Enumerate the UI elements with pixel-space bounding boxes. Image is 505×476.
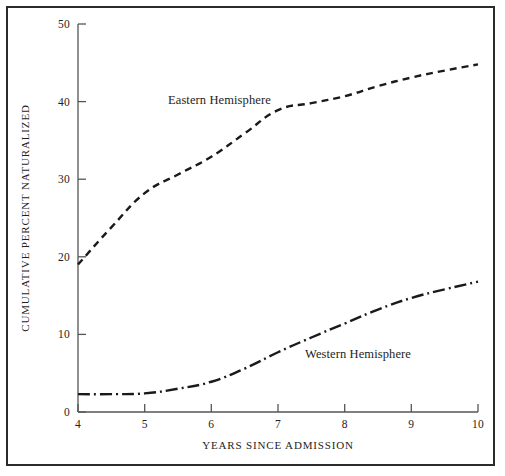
x-tick-label-10: 10 <box>472 418 484 430</box>
series-line-eastern-hemisphere <box>78 64 478 264</box>
series-line-western-hemisphere <box>78 282 478 395</box>
x-axis-title: YEARS SINCE ADMISSION <box>202 439 354 451</box>
x-tick-label-6: 6 <box>208 418 214 430</box>
x-tick-label-7: 7 <box>275 418 281 430</box>
y-tick-marks <box>78 24 86 412</box>
series-label-western-hemisphere: Western Hemisphere <box>305 347 411 362</box>
x-tick-label-8: 8 <box>342 418 348 430</box>
y-tick-label-10: 10 <box>48 328 70 340</box>
x-tick-label-9: 9 <box>408 418 414 430</box>
series-label-eastern-hemisphere: Eastern Hemisphere <box>168 93 271 108</box>
x-tick-label-4: 4 <box>75 418 81 430</box>
x-tick-marks <box>78 404 478 412</box>
y-axis-title: CUMULATIVE PERCENT NATURALIZED <box>19 104 31 332</box>
y-tick-label-50: 50 <box>48 18 70 30</box>
y-tick-label-30: 30 <box>48 173 70 185</box>
chart-figure: 50 40 30 20 10 0 4 5 6 7 8 9 10 YEARS SI… <box>0 0 505 476</box>
plot-area <box>0 0 505 476</box>
y-tick-label-20: 20 <box>48 251 70 263</box>
y-tick-label-40: 40 <box>48 96 70 108</box>
y-tick-label-0: 0 <box>48 406 70 418</box>
x-tick-label-5: 5 <box>142 418 148 430</box>
